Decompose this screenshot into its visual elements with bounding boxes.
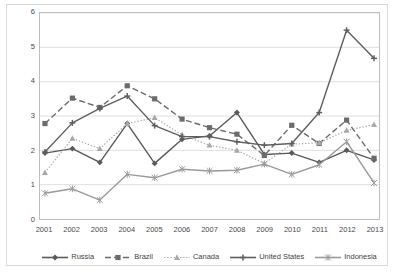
legend-swatch-square-icon	[105, 253, 131, 262]
data-point-triangle	[371, 121, 377, 127]
data-point-triangle	[42, 169, 48, 175]
data-point-square	[207, 125, 212, 130]
data-point-square	[152, 96, 157, 101]
data-point-triangle	[69, 135, 75, 141]
legend-label: Canada	[193, 253, 219, 261]
data-point-square	[179, 117, 184, 122]
data-point-star	[371, 180, 377, 187]
chart-legend: RussiaBrazilCanadaUnited StatesIndonesia	[39, 249, 380, 265]
data-point-cross	[234, 139, 240, 145]
legend-item-united-states[interactable]: United States	[230, 253, 304, 262]
y-tick-label: 0	[7, 216, 35, 224]
data-point-square	[262, 153, 267, 158]
y-tick-label: 6	[7, 8, 35, 16]
plot-svg	[40, 13, 379, 219]
data-point-triangle	[152, 115, 158, 121]
data-point-square	[344, 118, 349, 123]
y-tick-label: 2	[7, 147, 35, 155]
data-point-square	[116, 254, 121, 259]
legend-label: Indonesia	[344, 253, 377, 261]
legend-label: Russia	[71, 253, 94, 261]
y-tick-label: 1	[7, 182, 35, 190]
data-point-square	[125, 83, 130, 88]
data-point-cross	[261, 142, 267, 148]
data-point-diamond	[289, 150, 295, 156]
y-axis-tick-labels: 0123456	[5, 12, 35, 220]
data-point-star	[344, 138, 350, 145]
data-point-diamond	[344, 147, 350, 153]
legend-label: Brazil	[134, 253, 153, 261]
legend-item-russia[interactable]: Russia	[42, 253, 94, 262]
x-axis-tick-labels: 2001200220032004200520062007200820092010…	[39, 226, 380, 240]
series-brazil	[42, 83, 376, 161]
y-tick-label: 3	[7, 112, 35, 120]
legend-item-canada[interactable]: Canada	[164, 253, 219, 262]
series-united-states	[42, 27, 377, 155]
data-point-cross	[240, 254, 246, 260]
chart-figure: Million hectares 0123456 200120022003200…	[0, 0, 394, 275]
data-point-triangle	[344, 127, 350, 133]
y-tick-label: 4	[7, 78, 35, 86]
legend-swatch-triangle-icon	[164, 253, 190, 262]
legend-swatch-cross-icon	[230, 253, 256, 262]
legend-item-brazil[interactable]: Brazil	[105, 253, 153, 262]
legend-swatch-star-icon	[315, 253, 341, 262]
data-point-square	[234, 132, 239, 137]
data-point-square	[371, 156, 376, 161]
data-point-square	[289, 123, 294, 128]
legend-swatch-diamond-icon	[42, 253, 68, 262]
legend-label: United States	[259, 253, 304, 261]
plot-area	[39, 12, 380, 220]
data-point-diamond	[52, 254, 58, 260]
data-point-square	[42, 121, 47, 126]
x-tick-label: 2013	[358, 226, 392, 234]
series-indonesia	[42, 138, 377, 203]
data-point-square	[70, 96, 75, 101]
legend-item-indonesia[interactable]: Indonesia	[315, 253, 377, 262]
series-layer	[42, 27, 377, 203]
data-point-star	[97, 197, 103, 204]
series-canada	[42, 115, 377, 175]
y-tick-label: 5	[7, 43, 35, 51]
